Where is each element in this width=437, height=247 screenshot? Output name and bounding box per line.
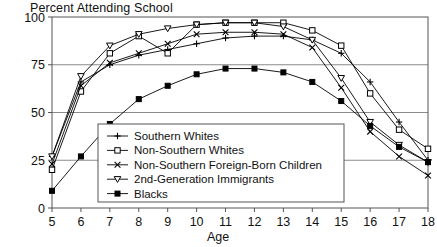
x-tick-13: 13 xyxy=(276,215,290,229)
series-marker xyxy=(78,154,83,159)
series-marker xyxy=(367,91,372,96)
y-tick-100: 100 xyxy=(24,11,45,25)
series-marker xyxy=(426,160,431,165)
series-marker xyxy=(50,188,55,193)
y-tick-0: 0 xyxy=(38,202,45,216)
x-tick-16: 16 xyxy=(363,215,377,229)
legend-label-3: 2nd-Generation Immigrants xyxy=(134,173,274,185)
x-tick-15: 15 xyxy=(334,215,348,229)
series-marker xyxy=(78,74,85,80)
x-tick-12: 12 xyxy=(248,215,262,229)
x-tick-11: 11 xyxy=(219,215,232,229)
x-tick-6: 6 xyxy=(77,215,84,229)
y-tick-75: 75 xyxy=(31,58,45,72)
x-axis-tick-labels: 56789101112131415161718 xyxy=(49,208,435,229)
x-tick-9: 9 xyxy=(164,215,171,229)
y-axis-tick-labels: 0255075100 xyxy=(24,11,52,216)
series-marker xyxy=(339,43,344,48)
x-tick-18: 18 xyxy=(421,215,435,229)
series-marker xyxy=(280,24,287,30)
series-marker xyxy=(165,83,170,88)
chart-legend: Southern WhitesNon-Southern WhitesNon-So… xyxy=(98,124,344,202)
series-marker xyxy=(223,66,228,71)
chart-figure: Percent Attending School 0255075100 5678… xyxy=(0,0,437,247)
legend-label-1: Non-Southern Whites xyxy=(134,144,244,156)
series-marker xyxy=(49,167,54,172)
series-marker xyxy=(136,97,141,102)
series-marker xyxy=(339,99,344,104)
series-marker xyxy=(252,66,257,71)
legend-label-0: Southern Whites xyxy=(134,130,219,142)
series-marker xyxy=(310,28,315,33)
x-tick-17: 17 xyxy=(392,215,406,229)
legend-sample-marker xyxy=(115,191,120,196)
series-marker xyxy=(425,146,430,151)
line-chart-svg: 0255075100 56789101112131415161718 Age S… xyxy=(0,0,437,247)
x-tick-14: 14 xyxy=(305,215,319,229)
y-tick-25: 25 xyxy=(31,154,45,168)
x-tick-5: 5 xyxy=(49,215,56,229)
x-tick-10: 10 xyxy=(190,215,204,229)
series-marker xyxy=(397,144,402,149)
y-tick-50: 50 xyxy=(31,106,45,120)
legend-label-2: Non-Southern Foreign-Born Children xyxy=(134,159,322,171)
series-marker xyxy=(310,79,315,84)
series-marker xyxy=(338,76,345,82)
series-marker xyxy=(165,51,170,56)
series-marker xyxy=(368,123,373,128)
plot-area: 0255075100 56789101112131415161718 Age S… xyxy=(0,0,437,247)
series-marker xyxy=(281,70,286,75)
x-axis-title: Age xyxy=(207,230,229,244)
series-marker xyxy=(107,51,112,56)
legend-label-4: Blacks xyxy=(134,188,168,200)
series-marker xyxy=(194,72,199,77)
series-marker xyxy=(396,127,401,132)
legend-sample-marker xyxy=(115,148,120,153)
x-tick-7: 7 xyxy=(106,215,113,229)
x-tick-8: 8 xyxy=(135,215,142,229)
